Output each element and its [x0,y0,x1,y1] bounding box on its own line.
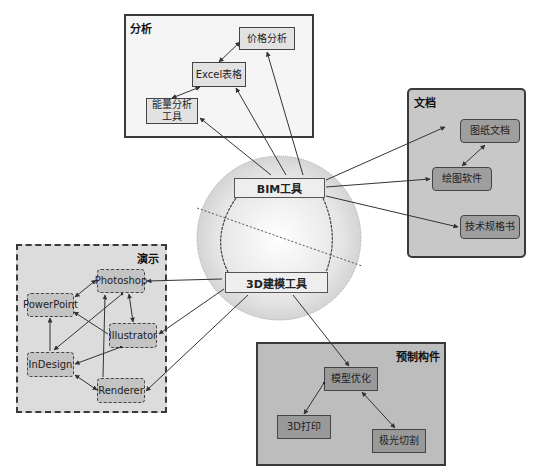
connector-layer [0,0,537,475]
hub-3d-modeling-tools[interactable]: 3D建模工具 [225,272,328,293]
hub-bim-tools[interactable]: BIM工具 [234,178,325,198]
